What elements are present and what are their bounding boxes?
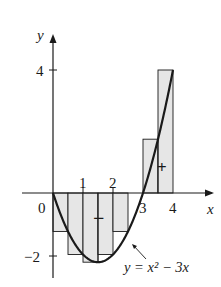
- origin-label: 0: [38, 200, 46, 216]
- x-axis-label: x: [206, 201, 214, 217]
- y-tick-label-4: 4: [36, 63, 44, 79]
- negative-sign: −: [93, 207, 104, 229]
- x-axis-arrow-icon: [205, 190, 214, 197]
- positive-sign: +: [157, 158, 167, 177]
- x-tick-label-1: 1: [79, 175, 87, 191]
- x-tick-label-2: 2: [109, 175, 117, 191]
- x-tick-label-3: 3: [139, 200, 147, 216]
- riemann-sum-figure: y x 4 −2 0 1 2 3 4 − + y = x² − 3x: [0, 0, 221, 287]
- function-label: y = x² − 3x: [122, 259, 190, 275]
- y-tick-label-minus2: −2: [24, 249, 40, 265]
- riemann-rectangle: [113, 193, 128, 231]
- x-tick-label-4: 4: [169, 200, 177, 216]
- y-axis-arrow-icon: [50, 34, 57, 43]
- y-axis-label: y: [35, 27, 44, 43]
- riemann-rectangles: [53, 70, 173, 262]
